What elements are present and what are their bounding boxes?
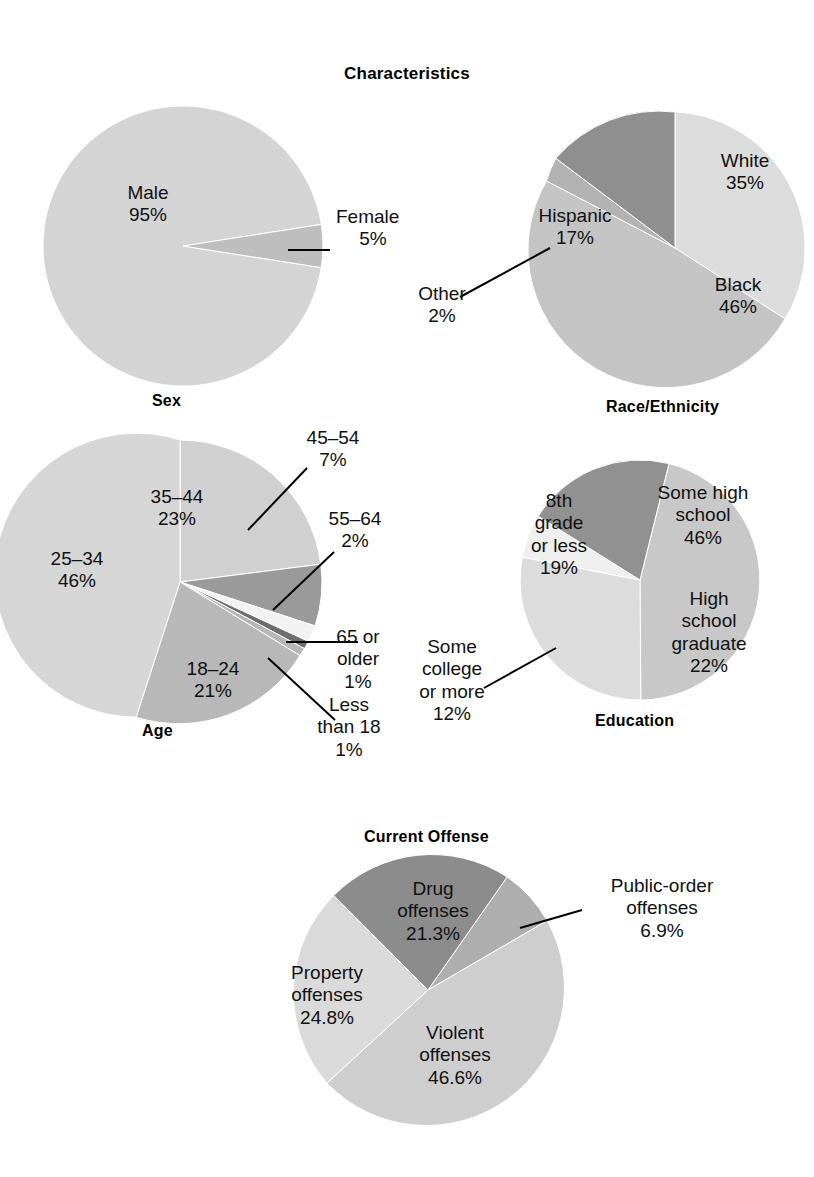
pie-panel-current-offense: Drug offenses 21.3% Property offenses 24… xyxy=(200,800,814,1160)
pie-label-white: White 35% xyxy=(695,150,795,195)
pie-title-age: Age xyxy=(142,722,173,740)
characteristics-figure: Characteristics Male 95% Female 5% Sex xyxy=(0,0,814,1177)
pie-label-age-45-54: 45–54 7% xyxy=(278,427,388,472)
pie-label-some-college-or-more: Some college or more 12% xyxy=(392,636,512,726)
pie-label-violent-offenses: Violent offenses 46.6% xyxy=(390,1022,520,1089)
pie-label-age-25-34: 25–34 46% xyxy=(22,548,132,593)
pie-title-current-offense: Current Offense xyxy=(364,828,489,846)
pie-label-age-35-44: 35–44 23% xyxy=(122,486,232,531)
pie-label-high-school-graduate: High school graduate 22% xyxy=(644,588,774,678)
pie-label-age-18-24: 18–24 21% xyxy=(158,658,268,703)
pie-title-race: Race/Ethnicity xyxy=(606,398,719,416)
pie-panel-race: White 35% Black 46% Hispanic 17% Other 2… xyxy=(400,0,814,420)
pie-label-age-less-than-18: Less than 18 1% xyxy=(296,694,402,761)
pie-label-other: Other 2% xyxy=(392,283,492,328)
pie-label-property-offenses: Property offenses 24.8% xyxy=(262,962,392,1029)
pie-panel-sex: Male 95% Female 5% Sex xyxy=(0,0,400,420)
pie-label-some-high-school: Some high school 46% xyxy=(628,482,778,549)
pie-title-education: Education xyxy=(595,712,674,730)
pie-label-public-order-offenses: Public-order offenses 6.9% xyxy=(582,875,742,942)
pie-label-black: Black 46% xyxy=(688,274,788,319)
pie-label-age-55-64: 55–64 2% xyxy=(300,508,410,553)
pie-label-drug-offenses: Drug offenses 21.3% xyxy=(368,878,498,945)
pie-label-8th-grade-or-less: 8th grade or less 19% xyxy=(510,490,608,580)
pie-panel-age: 35–44 23% 25–34 46% 18–24 21% 45–54 7% 5… xyxy=(0,420,400,760)
pie-panel-education: Some high school 46% High school graduat… xyxy=(400,420,814,760)
pie-title-sex: Sex xyxy=(152,392,181,410)
pie-label-male: Male 95% xyxy=(88,182,208,227)
pie-label-hispanic: Hispanic 17% xyxy=(510,205,640,250)
